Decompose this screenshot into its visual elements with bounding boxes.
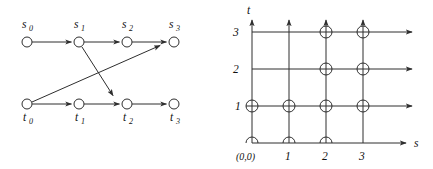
label-t0-base: t [23,111,27,123]
label-s2-base: s [122,18,127,30]
y-tick-2: 2 [233,63,239,75]
edge-t0-s3-diagonal [32,46,160,103]
label-s3-base: s [169,18,174,30]
transition-graph-svg: s 0 s 1 s 2 s 3 t 0 t 1 t 2 t 3 [0,0,216,169]
node-t3[interactable] [169,99,179,109]
label-s3-subscript: 3 [175,24,180,33]
transition-graph-edges [32,42,167,104]
label-s2-subscript: 2 [129,24,133,33]
axis-label-s: s [414,137,419,149]
label-s1-subscript: 1 [81,24,85,33]
node-s3[interactable] [169,37,179,47]
lattice-grid-panel: t s 3 2 1 (0,0) 1 2 3 [216,0,433,169]
lattice-nodes [246,26,369,149]
label-t3-base: t [170,111,174,123]
node-s2[interactable] [122,37,132,47]
label-s0-subscript: 0 [29,24,33,33]
y-tick-3: 3 [232,26,239,38]
lattice-grid-svg: t s 3 2 1 (0,0) 1 2 3 [216,0,433,169]
lattice-vertical-rays [252,20,363,143]
x-tick-3: 3 [358,150,365,162]
y-tick-1: 1 [235,100,241,112]
transition-graph-panel: s 0 s 1 s 2 s 3 t 0 t 1 t 2 t 3 [0,0,216,169]
figure-root: s 0 s 1 s 2 s 3 t 0 t 1 t 2 t 3 [0,0,433,169]
x-tick-2: 2 [322,150,328,162]
label-t1-base: t [75,111,79,123]
label-t1-subscript: 1 [81,117,85,126]
edge-s1-t2-diagonal [82,47,113,96]
label-t3-subscript: 3 [175,117,180,126]
node-t2[interactable] [122,99,132,109]
label-s0-base: s [22,18,27,30]
origin-label: (0,0) [236,151,256,163]
node-t0[interactable] [22,99,32,109]
node-t1[interactable] [74,99,84,109]
label-t2-subscript: 2 [129,117,133,126]
axis-label-t: t [247,4,251,16]
x-tick-1: 1 [285,150,291,162]
node-s1[interactable] [74,37,84,47]
label-t0-subscript: 0 [29,117,33,126]
node-s0[interactable] [22,37,32,47]
lattice-horizontal-rays [252,32,412,143]
label-t2-base: t [123,111,127,123]
label-s1-base: s [74,18,79,30]
